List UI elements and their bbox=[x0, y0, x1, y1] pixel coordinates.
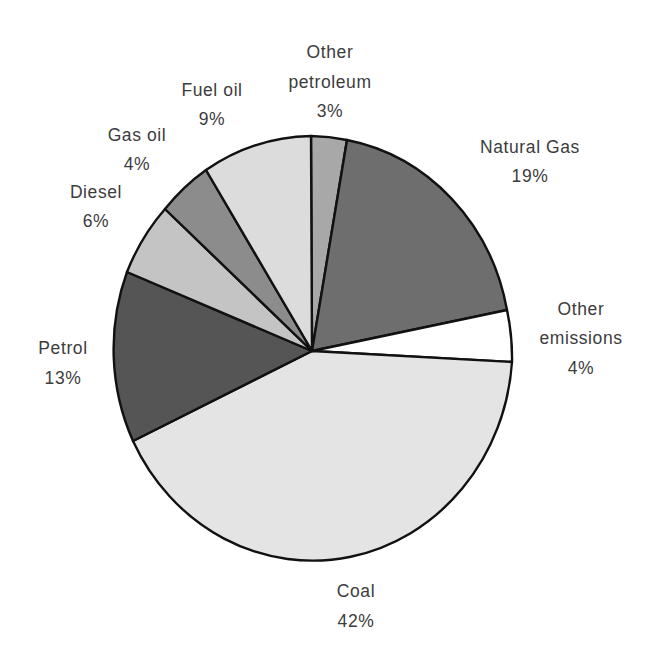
label-diesel: Diesel 6% bbox=[70, 182, 122, 231]
svg-text:Petrol: Petrol bbox=[38, 338, 87, 358]
label-petrol: Petrol 13% bbox=[38, 338, 87, 388]
svg-text:Other: Other bbox=[307, 42, 354, 62]
label-gas-oil: Gas oil 4% bbox=[108, 125, 167, 174]
svg-text:3%: 3% bbox=[317, 101, 344, 121]
label-coal: Coal 42% bbox=[337, 581, 375, 631]
svg-text:Gas oil: Gas oil bbox=[108, 125, 167, 145]
svg-text:petroleum: petroleum bbox=[288, 72, 371, 92]
svg-text:42%: 42% bbox=[338, 611, 375, 631]
svg-text:6%: 6% bbox=[83, 211, 110, 231]
pie-slices bbox=[114, 136, 512, 561]
svg-text:emissions: emissions bbox=[539, 328, 622, 348]
svg-text:13%: 13% bbox=[45, 368, 82, 388]
label-other-petroleum: Other petroleum 3% bbox=[288, 42, 371, 121]
svg-text:4%: 4% bbox=[124, 154, 151, 174]
svg-text:4%: 4% bbox=[568, 358, 595, 378]
svg-text:Coal: Coal bbox=[337, 581, 375, 601]
label-other-emissions: Other emissions 4% bbox=[539, 299, 622, 378]
svg-text:Natural Gas: Natural Gas bbox=[480, 137, 580, 157]
label-fuel-oil: Fuel oil 9% bbox=[181, 80, 242, 129]
svg-text:Fuel oil: Fuel oil bbox=[181, 80, 242, 100]
svg-text:Other: Other bbox=[558, 299, 605, 319]
svg-text:9%: 9% bbox=[199, 109, 226, 129]
svg-text:Diesel: Diesel bbox=[70, 182, 122, 202]
svg-text:19%: 19% bbox=[512, 166, 549, 186]
pie-chart: Other petroleum 3% Fuel oil 9% Gas oil 4… bbox=[0, 0, 648, 661]
label-natural-gas: Natural Gas 19% bbox=[480, 137, 580, 186]
